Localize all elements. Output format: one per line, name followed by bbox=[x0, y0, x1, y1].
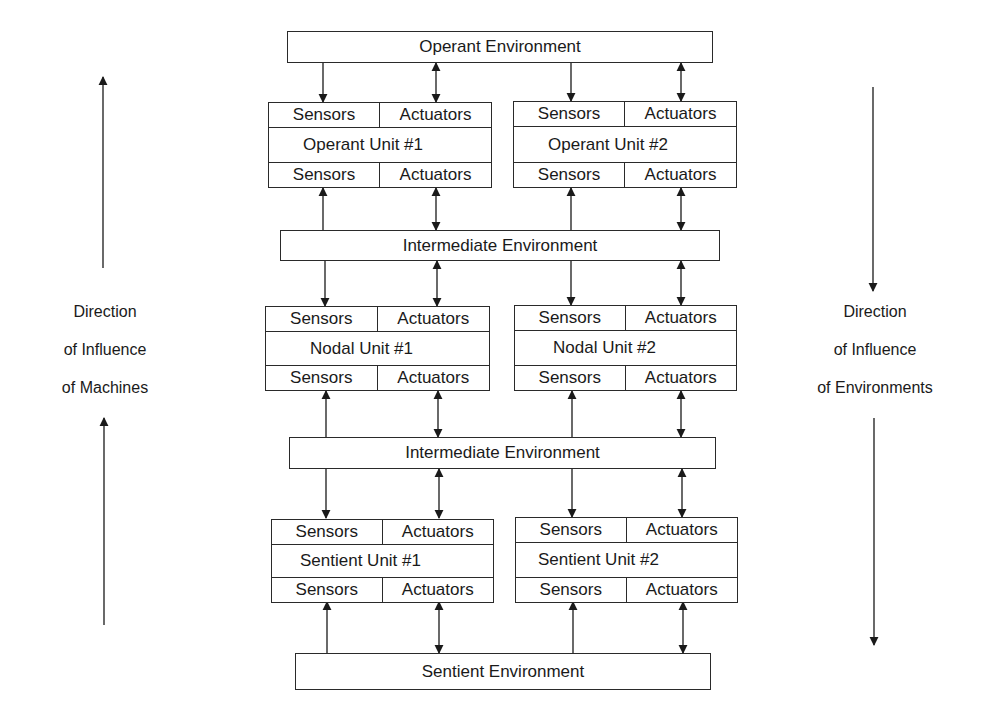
actuators-label: Actuators bbox=[378, 307, 490, 331]
unit-name: Sentient Unit #2 bbox=[516, 542, 737, 578]
actuators-label: Actuators bbox=[626, 366, 737, 390]
actuators-label: Actuators bbox=[627, 518, 738, 542]
sensors-label: Sensors bbox=[269, 103, 380, 127]
unit-name: Sentient Unit #1 bbox=[272, 544, 493, 578]
sensors-label: Sensors bbox=[272, 520, 383, 544]
actuators-label: Actuators bbox=[627, 578, 738, 602]
sensors-label: Sensors bbox=[514, 102, 625, 126]
unit-name: Operant Unit #2 bbox=[514, 126, 736, 163]
actuators-label: Actuators bbox=[380, 103, 491, 127]
unit-name: Nodal Unit #2 bbox=[515, 330, 736, 366]
label-line: Direction bbox=[30, 293, 180, 331]
sensors-label: Sensors bbox=[269, 163, 380, 187]
actuators-label: Actuators bbox=[380, 163, 491, 187]
sensors-label: Sensors bbox=[516, 578, 627, 602]
sensors-label: Sensors bbox=[516, 518, 627, 542]
sensors-label: Sensors bbox=[272, 578, 383, 602]
nodal-unit-1: Sensors Actuators Nodal Unit #1 Sensors … bbox=[265, 306, 490, 391]
sensors-label: Sensors bbox=[266, 366, 378, 390]
label-line: of Influence bbox=[790, 331, 960, 369]
sentient-environment: Sentient Environment bbox=[295, 653, 711, 690]
intermediate-environment-upper: Intermediate Environment bbox=[280, 230, 720, 261]
actuators-label: Actuators bbox=[626, 306, 737, 330]
direction-of-influence-of-environments-label: Direction of Influence of Environments bbox=[790, 293, 960, 407]
sensors-label: Sensors bbox=[514, 163, 625, 187]
operant-unit-2: Sensors Actuators Operant Unit #2 Sensor… bbox=[513, 101, 737, 188]
actuators-label: Actuators bbox=[625, 102, 736, 126]
label-line: of Influence bbox=[30, 331, 180, 369]
operant-environment: Operant Environment bbox=[287, 31, 713, 63]
label-line: Direction bbox=[790, 293, 960, 331]
actuators-label: Actuators bbox=[383, 578, 494, 602]
unit-name: Nodal Unit #1 bbox=[266, 331, 489, 366]
sentient-unit-1: Sensors Actuators Sentient Unit #1 Senso… bbox=[271, 519, 494, 603]
actuators-label: Actuators bbox=[383, 520, 494, 544]
label-line: of Environments bbox=[790, 369, 960, 407]
nodal-unit-2: Sensors Actuators Nodal Unit #2 Sensors … bbox=[514, 305, 737, 391]
sensors-label: Sensors bbox=[515, 306, 626, 330]
label-line: of Machines bbox=[30, 369, 180, 407]
sensors-label: Sensors bbox=[266, 307, 378, 331]
unit-name: Operant Unit #1 bbox=[269, 127, 491, 163]
operant-unit-1: Sensors Actuators Operant Unit #1 Sensor… bbox=[268, 102, 492, 188]
actuators-label: Actuators bbox=[378, 366, 490, 390]
sentient-unit-2: Sensors Actuators Sentient Unit #2 Senso… bbox=[515, 517, 738, 603]
intermediate-environment-lower: Intermediate Environment bbox=[289, 437, 716, 469]
sensors-label: Sensors bbox=[515, 366, 626, 390]
actuators-label: Actuators bbox=[625, 163, 736, 187]
direction-of-influence-of-machines-label: Direction of Influence of Machines bbox=[30, 293, 180, 407]
